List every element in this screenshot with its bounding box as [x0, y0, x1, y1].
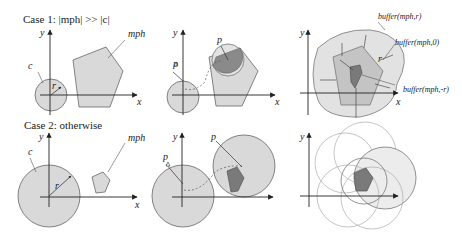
circle-p: [213, 135, 275, 197]
mph-label: mph: [128, 132, 145, 143]
buffer-negative-label: buffer(mph,-r): [403, 85, 449, 94]
buffer-zero-label: buffer(mph,0): [395, 38, 439, 47]
x-axis-label: x: [396, 96, 400, 107]
c-label: c: [28, 146, 32, 157]
x-axis-label: x: [137, 96, 141, 107]
panel-case1-buffers: [300, 22, 404, 118]
y-axis-label: y: [39, 131, 43, 142]
mph-polygon: [73, 47, 123, 107]
p-label: p: [211, 131, 216, 142]
x-axis-label: x: [135, 199, 139, 210]
r-label: r: [378, 53, 382, 64]
panel-case1-initial: [35, 30, 137, 115]
mph-label: mph: [128, 28, 145, 39]
r-label: r: [52, 80, 56, 91]
c-label: c: [28, 60, 32, 71]
case1-title: Case 1: |mph| >> |c|: [23, 13, 110, 25]
y-axis-label: y: [173, 131, 177, 142]
case2-title: Case 2: otherwise: [24, 119, 102, 131]
start-marker: [166, 162, 170, 166]
y-axis-label: y: [40, 27, 44, 38]
p-label: p: [217, 34, 222, 45]
x-axis-label: x: [275, 96, 279, 107]
panel-case2-moving: [152, 133, 275, 227]
r-label: r: [55, 180, 59, 191]
p0-label: p: [163, 151, 168, 162]
p0-label: p: [173, 58, 178, 69]
buffer-positive-label: buffer(mph,r): [378, 12, 421, 21]
y-axis-label: y: [300, 131, 304, 142]
circle-p0: [152, 165, 214, 227]
panel-case2-circles: [300, 122, 416, 229]
y-axis-label: y: [300, 27, 304, 38]
mph-polygon: [92, 172, 110, 193]
panel-case2-initial: [18, 133, 137, 227]
y-axis-label: y: [173, 27, 177, 38]
